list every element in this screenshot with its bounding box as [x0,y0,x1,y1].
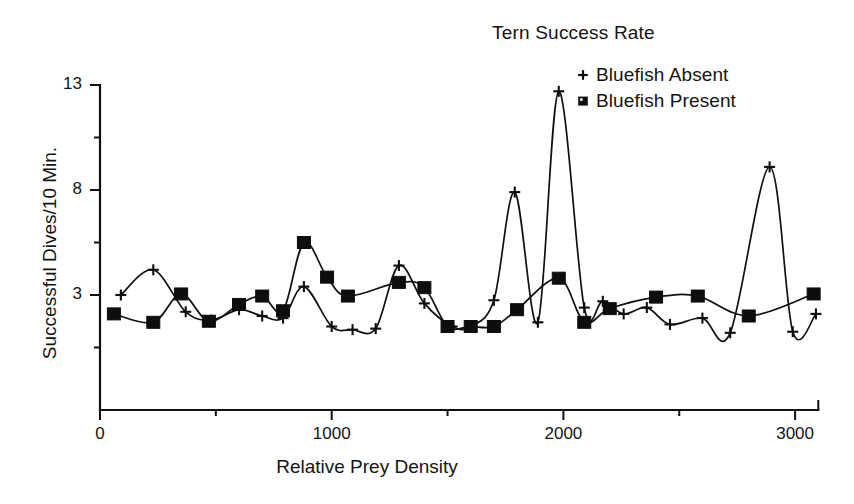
data-point-plus [697,313,708,324]
legend-entry-bluefish-absent: Bluefish Absent [570,62,840,88]
data-point-square [392,276,405,288]
data-point-plus [148,264,159,275]
data-point-plus [810,308,821,319]
legend-label-bluefish-absent: Bluefish Absent [596,64,728,86]
data-point-plus [488,295,499,306]
x-axis-title: Relative Prey Density [0,456,854,478]
data-point-square [691,290,704,302]
x-tick-label: 2000 [533,424,593,444]
data-point-square [552,272,565,284]
data-point-plus [725,327,736,338]
data-point-square [742,310,755,322]
square-marker-icon [570,93,596,109]
axes-layer [90,85,818,420]
data-point-plus [553,86,564,97]
data-point-square [297,237,310,249]
series-layer [107,86,821,342]
data-point-square [256,290,269,302]
data-point-square [441,321,454,333]
data-point-square [418,282,431,294]
series-line [121,91,816,341]
x-tick-label: 0 [70,424,130,444]
data-point-plus [579,302,590,313]
data-point-square [487,321,500,333]
x-tick-label: 1000 [302,424,362,444]
data-point-square [277,305,290,317]
data-point-plus [347,324,358,335]
data-point-plus [618,308,629,319]
data-point-plus [787,326,798,337]
data-point-plus [257,311,268,322]
data-point-square [603,303,616,315]
data-point-square [511,304,524,316]
data-point-square [175,288,188,300]
plus-marker-icon [570,67,596,83]
series-bluefish-present [107,237,820,333]
data-point-plus [641,302,652,313]
data-point-square [147,316,160,328]
x-axis-title-text: Relative Prey Density [276,456,458,477]
data-point-square [341,290,354,302]
y-axis-title: Successful Dives/10 Min. [39,73,61,433]
data-point-square [464,321,477,333]
chart-figure: Tern Success Rate Bluefish Absent Bluefi… [0,0,854,504]
x-tick-label: 3000 [765,424,825,444]
chart-legend: Bluefish Absent Bluefish Present [570,62,840,114]
data-point-square [107,308,120,320]
data-point-square [807,288,820,300]
data-point-plus [664,319,675,330]
data-point-square [233,298,246,310]
legend-entry-bluefish-present: Bluefish Present [570,88,840,114]
legend-label-bluefish-present: Bluefish Present [596,90,736,112]
data-point-square [650,291,663,303]
data-point-square [202,315,215,327]
data-point-square [578,316,591,328]
chart-title: Tern Success Rate [492,22,655,44]
data-point-square [321,271,334,283]
series-line [114,242,814,330]
